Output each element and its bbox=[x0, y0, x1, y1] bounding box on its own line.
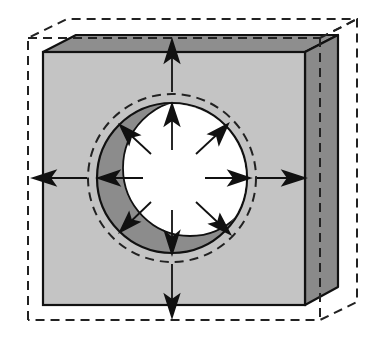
thermal-expansion-diagram bbox=[0, 0, 379, 343]
plate-top-face bbox=[43, 35, 338, 52]
plate-side-face bbox=[305, 35, 338, 305]
diagram-canvas bbox=[0, 0, 379, 343]
